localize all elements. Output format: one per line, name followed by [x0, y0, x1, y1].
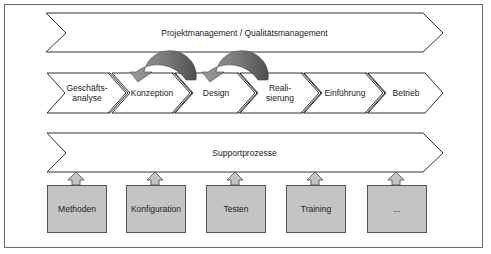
phase-label-einfuehrung: Einführung — [319, 73, 371, 113]
management-label: Projektmanagement / Qualitätsmanagement — [66, 13, 423, 52]
support-box-more: ... — [367, 185, 427, 233]
support-box-training: Training — [286, 185, 346, 233]
support-box-label: Konfiguration — [131, 204, 181, 214]
support-up-arrows — [68, 172, 404, 185]
support-box-testen: Testen — [206, 185, 266, 233]
support-box-methoden: Methoden — [47, 185, 107, 233]
phase-label-betrieb: Betrieb — [383, 73, 429, 113]
support-box-label: Testen — [223, 204, 248, 214]
phase-label-konzeption: Konzeption — [127, 73, 177, 113]
support-box-label: Training — [301, 204, 331, 214]
phase-label-realisierung: Reali- sierung — [255, 73, 305, 113]
phase-label-design: Design — [190, 73, 242, 113]
support-box-label: ... — [393, 204, 400, 214]
support-box-konfiguration: Konfiguration — [126, 185, 186, 233]
support-box-label: Methoden — [58, 204, 96, 214]
phase-label-geschaeftsanalyse: Geschäfts- analyse — [62, 73, 112, 113]
support-label: Supportprozesse — [66, 133, 423, 172]
